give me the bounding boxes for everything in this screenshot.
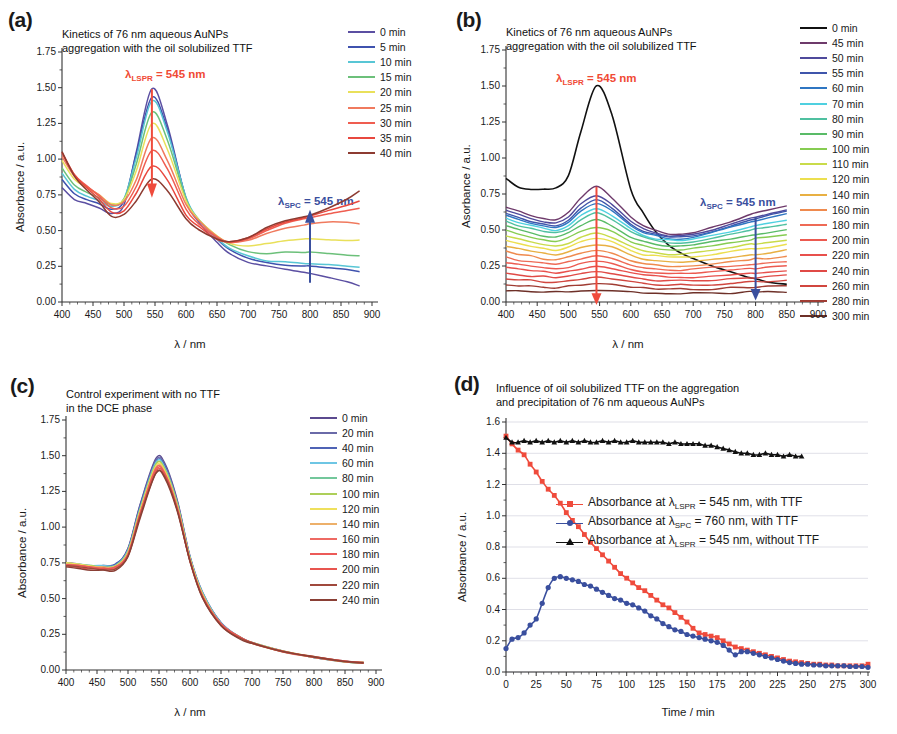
legend-label: 280 min [832,295,869,307]
legend-color-swatch [800,224,827,226]
legend-label: 60 min [342,457,374,469]
y-tick-label: 0.50 [466,224,500,235]
legend-label: 90 min [832,128,864,140]
legend-item: 260 min [800,278,869,293]
legend-color-swatch [348,31,375,33]
legend-item: 40 min [348,146,412,161]
y-tick-label: 1.25 [26,485,60,496]
y-tick-label: 0.6 [466,572,500,583]
y-tick-label: 0.4 [466,604,500,615]
legend-item: 100 min [800,142,869,157]
legend-color-swatch [800,209,827,211]
legend-label: 10 min [380,56,412,68]
legend-color-swatch [310,447,337,449]
y-tick-label: 0.2 [466,635,500,646]
legend-label: 100 min [832,143,869,155]
legend-item: 0 min [800,20,869,35]
y-tick-label: 1.2 [466,479,500,490]
legend-item: 10 min [348,54,412,69]
legend-color-swatch [800,133,827,135]
legend-item: 60 min [310,456,379,471]
y-tick-label: 1.75 [466,44,500,55]
legend-label: 0 min [342,412,368,424]
legend-color-swatch [800,163,827,165]
legend-label: 200 min [832,234,869,246]
legend-symbol [567,501,573,507]
legend-marker [556,519,583,527]
legend-marker [556,500,583,508]
legend-label: 50 min [832,52,864,64]
legend-color-swatch [310,538,337,540]
legend-color-swatch [800,27,827,29]
panel-d-legend: Absorbance at λLSPR = 545 nm, with TTFAb… [556,494,819,551]
legend-color-swatch [348,76,375,78]
legend-color-swatch [310,523,337,525]
legend-item: 30 min [348,115,412,130]
y-tick-label: 1.25 [466,116,500,127]
legend-color-swatch [310,417,337,419]
legend-label: Absorbance at λLSPR = 545 nm, with TTF [588,495,802,511]
legend-color-swatch [800,178,827,180]
y-tick-label: 0.00 [466,296,500,307]
legend-color-swatch [310,568,337,570]
legend-color-swatch [348,107,375,109]
y-tick-label: 1.00 [22,153,56,164]
legend-color-swatch [348,152,375,154]
y-tick-label: 1.75 [22,46,56,57]
y-tick-label: 0.25 [26,628,60,639]
legend-label: 160 min [342,533,379,545]
legend-item: 20 min [310,425,379,440]
legend-color-swatch [800,239,827,241]
y-tick-label: 0.00 [26,664,60,675]
legend-item: 240 min [800,263,869,278]
legend-item: 120 min [310,501,379,516]
legend-item: Absorbance at λLSPR = 545 nm, with TTF [556,494,819,513]
legend-color-swatch [800,148,827,150]
legend-item: 50 min [800,50,869,65]
legend-label: 40 min [342,442,374,454]
y-tick-label: 1.50 [466,80,500,91]
panel-b-legend: 0 min45 min50 min55 min60 min70 min80 mi… [800,20,869,324]
legend-item: 5 min [348,39,412,54]
legend-item: Absorbance at λLSPR = 545 nm, without TT… [556,532,819,551]
legend-item: 280 min [800,293,869,308]
legend-item: 0 min [310,410,379,425]
legend-label: 15 min [380,71,412,83]
legend-marker [556,538,583,546]
legend-label: 0 min [380,26,406,38]
legend-label: 180 min [342,548,379,560]
legend-item: 110 min [800,157,869,172]
legend-label: 80 min [832,113,864,125]
y-tick-label: 0.50 [26,593,60,604]
x-tick-label: 300 [848,679,888,690]
legend-color-swatch [348,137,375,139]
legend-label: 20 min [380,86,412,98]
legend-label: 180 min [832,219,869,231]
legend-color-swatch [800,300,827,302]
legend-color-swatch [800,194,827,196]
legend-label: 70 min [832,98,864,110]
legend-color-swatch [310,493,337,495]
legend-color-swatch [310,599,337,601]
y-tick-label: 0.50 [22,225,56,236]
legend-item: 220 min [310,577,379,592]
legend-color-swatch [800,254,827,256]
legend-item: 45 min [800,35,869,50]
y-tick-label: 0.8 [466,541,500,552]
panel-a-legend: 0 min5 min10 min15 min20 min25 min30 min… [348,24,412,161]
legend-color-swatch [310,477,337,479]
legend-item: 140 min [800,187,869,202]
legend-label: 0 min [832,22,858,34]
legend-color-swatch [800,103,827,105]
legend-label: Absorbance at λSPC = 760 nm, with TTF [588,514,798,530]
legend-color-swatch [800,270,827,272]
legend-color-swatch [310,553,337,555]
legend-color-swatch [800,285,827,287]
legend-color-swatch [310,584,337,586]
legend-item: 180 min [310,547,379,562]
legend-label: 100 min [342,488,379,500]
legend-item: 220 min [800,248,869,263]
legend-item: 20 min [348,85,412,100]
legend-color-swatch [800,87,827,89]
y-tick-label: 0.25 [22,260,56,271]
